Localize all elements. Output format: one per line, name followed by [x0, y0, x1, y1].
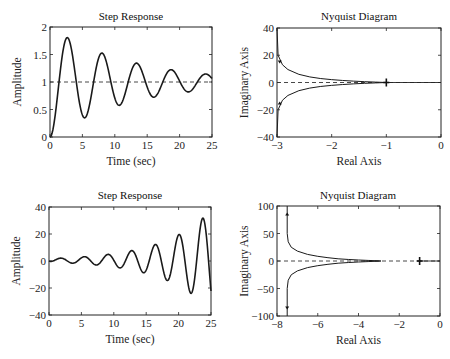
y-tick-labels: −40−2002040	[29, 201, 47, 321]
y-tick-labels: −100−50050100	[251, 200, 274, 322]
x-tick-label: −2	[393, 318, 405, 330]
y-tick-labels: 00.511.52	[33, 21, 47, 143]
x-tick-label: 15	[141, 317, 153, 329]
x-tick-label: 20	[173, 317, 185, 329]
y-tick-label: 50	[263, 228, 275, 240]
y-tick-label: 100	[258, 200, 275, 212]
plot-title: Nyquist Diagram	[320, 189, 397, 201]
y-tick-labels: −40−2002040	[257, 22, 275, 143]
data-series	[50, 38, 212, 137]
x-tick-label: 0	[437, 318, 443, 330]
x-tick-label: 10	[109, 139, 121, 151]
y-tick-label: 1	[42, 76, 48, 88]
y-tick-label: 40	[263, 22, 275, 34]
x-tick-label: 15	[142, 139, 154, 151]
y-tick-label: 40	[35, 201, 47, 213]
y-tick-label: −20	[257, 104, 275, 116]
series-line	[277, 28, 386, 83]
y-tick-label: 0.5	[33, 104, 47, 116]
x-axis-label: Time (sec)	[106, 155, 155, 168]
y-tick-label: −100	[251, 310, 274, 322]
x-tick-labels: 0510152025	[46, 317, 217, 329]
y-tick-label: −40	[257, 131, 275, 143]
y-tick-label: 20	[35, 228, 47, 240]
data-series	[49, 218, 211, 293]
x-tick-label: 5	[80, 139, 86, 151]
series-line	[50, 38, 212, 137]
x-tick-labels: 0510152025	[47, 139, 218, 151]
x-tick-label: 0	[46, 317, 52, 329]
series-line	[287, 261, 381, 316]
x-tick-label: 25	[207, 139, 219, 151]
y-axis-label: Imaginary Axis	[238, 46, 251, 118]
x-tick-label: −1	[380, 139, 392, 151]
y-tick-label: 0	[269, 255, 275, 267]
x-tick-labels: −3−2−10	[271, 139, 444, 151]
critical-point-marker	[383, 79, 441, 87]
y-tick-label: 20	[263, 49, 275, 61]
y-tick-label: 0	[269, 77, 275, 89]
plot-title: Nyquist Diagram	[321, 10, 398, 22]
x-axis-label: Time (sec)	[105, 333, 154, 346]
plot-title: Step Response	[98, 189, 163, 201]
axes-frame	[49, 207, 211, 315]
series-line	[49, 218, 211, 293]
y-tick-label: 1.5	[33, 49, 47, 61]
x-tick-label: 0	[438, 139, 444, 151]
x-axis-label: Real Axis	[336, 334, 382, 346]
plot-title: Step Response	[99, 10, 164, 22]
y-tick-label: −40	[29, 309, 47, 321]
figure: Step Response 0510152025 00.511.52 Time …	[0, 0, 450, 359]
y-axis-label: Imaginary Axis	[238, 225, 251, 297]
y-axis-label: Amplitude	[11, 57, 24, 106]
x-tick-label: 20	[174, 139, 186, 151]
y-tick-label: 0	[41, 255, 47, 267]
arrow-icon	[285, 213, 289, 216]
x-tick-label: −6	[312, 318, 324, 330]
x-tick-label: −4	[353, 318, 365, 330]
arrow-icon	[285, 306, 289, 309]
x-tick-label: 0	[47, 139, 53, 151]
y-tick-label: −50	[257, 283, 275, 295]
panel-step-response-stable: Step Response 0510152025 00.511.52 Time …	[11, 10, 218, 168]
series-line	[277, 83, 386, 138]
x-tick-labels: −8−6−4−20	[271, 318, 443, 330]
panel-step-response-unstable: Step Response 0510152025 −40−2002040 Tim…	[10, 189, 217, 346]
x-tick-label: 25	[206, 317, 218, 329]
x-tick-label: −2	[326, 139, 338, 151]
panel-nyquist-bottom: Nyquist Diagram −8−6−4−20 −100−50050100 …	[238, 189, 443, 346]
y-tick-label: −20	[29, 282, 47, 294]
x-tick-label: 10	[108, 317, 120, 329]
y-tick-label: 2	[42, 21, 48, 33]
critical-point-marker	[417, 257, 440, 265]
x-axis-label: Real Axis	[336, 155, 382, 167]
y-tick-label: 0	[42, 131, 48, 143]
y-axis-label: Amplitude	[10, 236, 23, 285]
series-line	[287, 206, 381, 261]
tick-marks	[49, 207, 211, 315]
x-tick-label: 5	[79, 317, 85, 329]
panel-nyquist-top: Nyquist Diagram −3−2−10 −40−2002040 Real…	[238, 10, 444, 167]
